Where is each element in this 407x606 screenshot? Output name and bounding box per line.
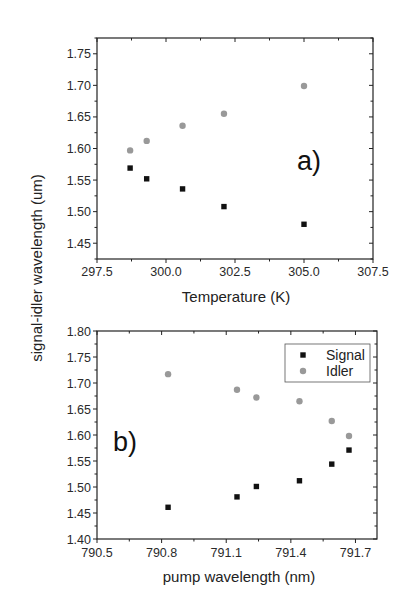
x-tick-label: 791.4: [275, 546, 306, 560]
data-point-signal: [180, 186, 185, 191]
y-tick-label: 1.50: [67, 481, 91, 495]
chart-panel-a: 297.5300.0302.5305.0307.51.451.501.551.6…: [67, 38, 389, 305]
legend-label: Idler: [326, 363, 354, 379]
series-signal: [165, 447, 351, 510]
data-point-signal: [165, 505, 170, 510]
y-tick-label: 1.70: [67, 377, 91, 391]
x-tick-label: 791.7: [340, 546, 371, 560]
y-tick-label: 1.60: [67, 429, 91, 443]
x-tick-label: 302.5: [219, 265, 250, 279]
x-tick-label: 300.0: [150, 265, 181, 279]
plot-frame: [97, 38, 373, 259]
data-point-idler: [179, 123, 185, 129]
x-tick-label: 307.5: [357, 265, 388, 279]
legend: SignalIdler: [285, 344, 370, 382]
data-point-idler: [234, 387, 240, 393]
data-point-signal: [297, 478, 302, 483]
y-tick-label: 1.65: [67, 110, 91, 124]
data-point-idler: [301, 83, 307, 89]
y-axis-title: signal-idler wavelength (um): [28, 174, 45, 362]
x-tick-label: 297.5: [81, 265, 112, 279]
data-point-idler: [221, 111, 227, 117]
figure: signal-idler wavelength (um) 297.5300.03…: [0, 0, 407, 606]
y-tick-label: 1.45: [67, 237, 91, 251]
y-tick-label: 1.65: [67, 403, 91, 417]
y-tick-label: 1.70: [67, 79, 91, 93]
chart-panel-b: 790.5790.8791.1791.4791.71.401.451.501.5…: [67, 325, 377, 586]
data-point-signal: [234, 494, 239, 499]
x-tick-label: 305.0: [288, 265, 319, 279]
data-point-idler: [143, 138, 149, 144]
y-tick-label: 1.55: [67, 455, 91, 469]
y-axis: 1.451.501.551.601.651.701.75: [67, 38, 373, 259]
data-point-signal: [301, 222, 306, 227]
data-point-idler: [165, 371, 171, 377]
panel-label: a): [297, 146, 321, 176]
x-axis-title: Temperature (K): [182, 288, 290, 305]
data-point-signal: [346, 447, 351, 452]
data-point-signal: [254, 484, 259, 489]
data-point-idler: [253, 394, 259, 400]
x-axis-title: pump wavelength (nm): [163, 568, 316, 585]
legend-label: Signal: [326, 347, 365, 363]
data-point-signal: [127, 165, 132, 170]
y-tick-label: 1.55: [67, 174, 91, 188]
y-tick-label: 1.60: [67, 142, 91, 156]
y-tick-label: 1.75: [67, 47, 91, 61]
data-point-idler: [127, 147, 133, 153]
data-point-idler: [329, 418, 335, 424]
data-point-idler: [346, 433, 352, 439]
data-point-signal: [329, 461, 334, 466]
x-axis: 297.5300.0302.5305.0307.5: [81, 38, 388, 279]
data-point-signal: [221, 204, 226, 209]
x-tick-label: 791.1: [211, 546, 242, 560]
legend-marker-signal: [300, 352, 305, 357]
data-point-idler: [296, 398, 302, 404]
x-tick-label: 790.5: [81, 546, 112, 560]
y-tick-label: 1.80: [67, 325, 91, 339]
legend-marker-idler: [300, 368, 306, 374]
y-tick-label: 1.50: [67, 205, 91, 219]
data-point-signal: [144, 176, 149, 181]
x-tick-label: 790.8: [146, 546, 177, 560]
y-tick-label: 1.75: [67, 351, 91, 365]
series-signal: [127, 165, 306, 227]
series-idler: [127, 83, 307, 154]
y-tick-label: 1.40: [67, 533, 91, 547]
panel-label: b): [113, 427, 137, 457]
y-tick-label: 1.45: [67, 507, 91, 521]
